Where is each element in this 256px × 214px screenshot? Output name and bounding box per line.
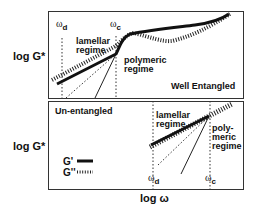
curves-layer xyxy=(0,0,256,214)
g-prime-curve xyxy=(151,116,209,145)
bottom-panel-curves xyxy=(77,101,232,190)
slope-dotted-line xyxy=(158,116,209,165)
g-prime-curve xyxy=(57,14,229,84)
top-panel-curves xyxy=(52,14,230,98)
